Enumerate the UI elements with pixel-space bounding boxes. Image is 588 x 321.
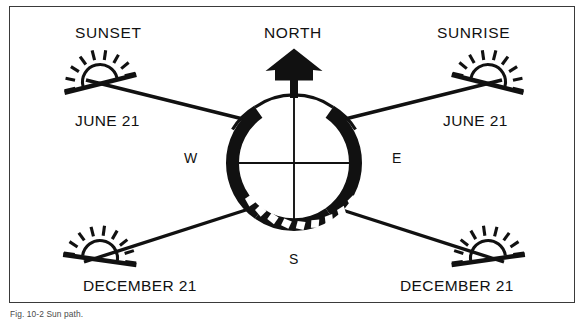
label-south: S (289, 251, 299, 267)
label-june-21-right: JUNE 21 (443, 112, 508, 130)
sun-ray (78, 233, 85, 241)
sun-ray (92, 50, 94, 60)
sun-ray (71, 65, 79, 73)
compass-rose-group (226, 49, 362, 232)
sun-top-left-icon (56, 42, 137, 95)
label-december-21-left: DECEMBER 21 (83, 277, 197, 295)
sun-ray (102, 50, 108, 60)
sun-ray (120, 239, 127, 247)
sun-ray (66, 76, 75, 82)
label-west: W (184, 150, 197, 166)
sun-ray (461, 239, 468, 247)
sun-ray (493, 227, 498, 237)
north-arrow-icon (266, 49, 323, 99)
sun-ray (480, 50, 486, 60)
figure-caption: Fig. 10-2 Sun path. (10, 309, 83, 319)
sun-ray (493, 50, 495, 60)
label-east: E (392, 150, 402, 166)
sun-ray (103, 226, 104, 236)
north-arrow-stem (290, 79, 298, 98)
sun-ray (120, 62, 129, 68)
figure-root: SUNSET NORTH SUNRISE JUNE 21 JUNE 21 W E… (0, 0, 588, 321)
sun-bottom-left-icon (63, 221, 141, 268)
north-arrow-head (266, 49, 323, 81)
sun-ray (513, 76, 522, 82)
sun-ray (509, 65, 517, 73)
label-sunset: SUNSET (75, 24, 141, 42)
sun-ray (502, 56, 508, 66)
sun-ray (468, 55, 476, 63)
sun-ray (503, 233, 510, 241)
label-december-21-right: DECEMBER 21 (400, 277, 514, 295)
sun-ray (483, 226, 484, 236)
sun-ray (112, 230, 117, 240)
label-june-21-left: JUNE 21 (75, 112, 140, 130)
sun-ray (69, 242, 78, 247)
ray-sunset-december-21 (84, 208, 252, 262)
sun-ray (90, 227, 95, 237)
ray-sunrise-december-21 (336, 208, 504, 262)
sun-ray (471, 230, 476, 240)
sun-path-diagram (0, 0, 588, 321)
label-sunrise: SUNRISE (437, 24, 510, 42)
sun-bottom-right-icon (447, 221, 525, 268)
sun-ray (510, 242, 519, 247)
sun-top-right-icon (451, 42, 532, 95)
sun-ray (80, 56, 86, 66)
label-north: NORTH (264, 24, 322, 42)
back-tick (311, 220, 319, 228)
sun-ray (458, 62, 467, 68)
sun-ray (112, 55, 120, 63)
